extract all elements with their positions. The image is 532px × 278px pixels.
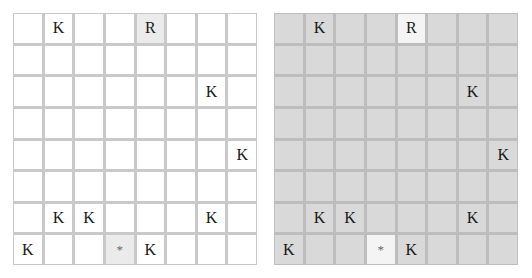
board-cell[interactable]: [275, 204, 303, 233]
board-cell[interactable]: [137, 172, 165, 201]
board-cell[interactable]: [459, 109, 487, 138]
board-cell[interactable]: [275, 141, 303, 170]
board-cell[interactable]: [14, 141, 42, 170]
board-cell[interactable]: [367, 14, 395, 43]
board-cell[interactable]: [14, 46, 42, 75]
board-cell[interactable]: [275, 46, 303, 75]
board-cell[interactable]: [45, 77, 73, 106]
board-cell[interactable]: [167, 109, 195, 138]
board-cell[interactable]: [398, 46, 426, 75]
king-piece-cell[interactable]: K: [45, 14, 73, 43]
board-cell[interactable]: [198, 14, 226, 43]
board-cell[interactable]: [306, 77, 334, 106]
king-piece-cell[interactable]: K: [306, 204, 334, 233]
board-cell[interactable]: [167, 77, 195, 106]
king-piece-cell[interactable]: K: [198, 204, 226, 233]
board-cell[interactable]: [14, 204, 42, 233]
board-cell[interactable]: [398, 109, 426, 138]
board-cell[interactable]: [198, 46, 226, 75]
board-cell[interactable]: [228, 77, 256, 106]
board-cell[interactable]: [336, 109, 364, 138]
board-cell[interactable]: [428, 235, 456, 264]
king-piece-cell[interactable]: K: [275, 235, 303, 264]
board-cell[interactable]: [398, 172, 426, 201]
board-cell[interactable]: [489, 109, 517, 138]
board-cell[interactable]: [137, 109, 165, 138]
board-cell[interactable]: [367, 77, 395, 106]
board-cell[interactable]: [398, 77, 426, 106]
board-cell[interactable]: [106, 141, 134, 170]
board-cell[interactable]: [336, 77, 364, 106]
board-cell[interactable]: [75, 172, 103, 201]
board-cell[interactable]: [428, 46, 456, 75]
board-cell[interactable]: [428, 141, 456, 170]
board-cell[interactable]: [75, 109, 103, 138]
board-cell[interactable]: [106, 46, 134, 75]
board-cell[interactable]: [428, 172, 456, 201]
board-cell[interactable]: [489, 14, 517, 43]
board-cell[interactable]: [428, 204, 456, 233]
rook-piece-cell[interactable]: R: [398, 14, 426, 43]
board-cell[interactable]: [336, 141, 364, 170]
board-cell[interactable]: [228, 204, 256, 233]
king-piece-cell[interactable]: K: [75, 204, 103, 233]
board-cell[interactable]: [367, 46, 395, 75]
board-cell[interactable]: [459, 172, 487, 201]
board-cell[interactable]: [459, 14, 487, 43]
board-cell[interactable]: [137, 77, 165, 106]
board-cell[interactable]: [137, 204, 165, 233]
board-cell[interactable]: [489, 172, 517, 201]
board-cell[interactable]: [75, 235, 103, 264]
king-piece-cell[interactable]: K: [459, 77, 487, 106]
board-cell[interactable]: [198, 141, 226, 170]
board-cell[interactable]: [275, 14, 303, 43]
target-marker-cell[interactable]: *: [367, 235, 395, 264]
board-cell[interactable]: [106, 204, 134, 233]
board-cell[interactable]: [137, 141, 165, 170]
board-cell[interactable]: [198, 109, 226, 138]
board-cell[interactable]: [367, 141, 395, 170]
target-marker-cell[interactable]: *: [106, 235, 134, 264]
board-cell[interactable]: [459, 141, 487, 170]
board-cell[interactable]: [459, 235, 487, 264]
board-cell[interactable]: [336, 14, 364, 43]
board-cell[interactable]: [167, 204, 195, 233]
board-cell[interactable]: [45, 172, 73, 201]
board-cell[interactable]: [459, 46, 487, 75]
king-piece-cell[interactable]: K: [398, 235, 426, 264]
board-cell[interactable]: [167, 141, 195, 170]
board-cell[interactable]: [428, 77, 456, 106]
board-cell[interactable]: [75, 14, 103, 43]
king-piece-cell[interactable]: K: [198, 77, 226, 106]
board-cell[interactable]: [45, 109, 73, 138]
board-cell[interactable]: [14, 109, 42, 138]
board-cell[interactable]: [428, 109, 456, 138]
board-cell[interactable]: [14, 172, 42, 201]
board-cell[interactable]: [428, 14, 456, 43]
board-cell[interactable]: [228, 235, 256, 264]
board-cell[interactable]: [367, 172, 395, 201]
board-cell[interactable]: [367, 204, 395, 233]
king-piece-cell[interactable]: K: [14, 235, 42, 264]
board-cell[interactable]: [106, 172, 134, 201]
board-cell[interactable]: [489, 77, 517, 106]
king-piece-cell[interactable]: K: [137, 235, 165, 264]
board-cell[interactable]: [45, 141, 73, 170]
board-cell[interactable]: [228, 14, 256, 43]
board-cell[interactable]: [398, 141, 426, 170]
king-piece-cell[interactable]: K: [306, 14, 334, 43]
board-cell[interactable]: [275, 77, 303, 106]
board-cell[interactable]: [167, 235, 195, 264]
board-cell[interactable]: [45, 235, 73, 264]
rook-piece-cell[interactable]: R: [137, 14, 165, 43]
board-cell[interactable]: [367, 109, 395, 138]
board-cell[interactable]: [275, 109, 303, 138]
board-cell[interactable]: [14, 77, 42, 106]
board-cell[interactable]: [106, 109, 134, 138]
board-cell[interactable]: [137, 46, 165, 75]
king-piece-cell[interactable]: K: [459, 204, 487, 233]
king-piece-cell[interactable]: K: [336, 204, 364, 233]
board-cell[interactable]: [336, 235, 364, 264]
board-cell[interactable]: [45, 46, 73, 75]
board-cell[interactable]: [167, 46, 195, 75]
